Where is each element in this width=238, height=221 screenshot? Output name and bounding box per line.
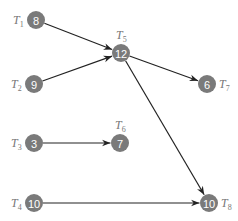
- node-t3: 3T3: [11, 134, 43, 152]
- edge-t5-t7: [129, 56, 198, 81]
- node-value: 8: [33, 15, 39, 27]
- node-label: T4: [11, 196, 22, 212]
- node-label: T3: [11, 136, 22, 152]
- node-t8: 10T8: [200, 194, 232, 212]
- node-label: T7: [219, 77, 230, 93]
- edge-t2-t5: [42, 56, 112, 81]
- node-t5: 12T5: [112, 28, 130, 62]
- node-t7: 6T7: [198, 75, 230, 93]
- node-label: T8: [221, 196, 232, 212]
- node-t6: 7T6: [111, 118, 129, 152]
- node-value: 10: [28, 198, 40, 210]
- node-value: 9: [31, 79, 37, 91]
- node-t1: 8T1: [13, 11, 45, 29]
- node-value: 7: [117, 138, 123, 150]
- node-value: 6: [204, 79, 210, 91]
- node-value: 3: [31, 138, 37, 150]
- node-value: 10: [203, 198, 215, 210]
- node-label: T2: [11, 77, 22, 93]
- node-t4: 10T4: [11, 194, 43, 212]
- edge-t5-t8: [126, 61, 205, 195]
- node-t2: 9T2: [11, 75, 43, 93]
- node-label: T5: [116, 28, 127, 44]
- nodes: 8T19T23T310T412T57T66T710T8: [11, 11, 232, 212]
- node-label: T6: [115, 118, 126, 134]
- edge-t1-t5: [44, 23, 112, 49]
- node-label: T1: [13, 13, 24, 29]
- task-graph-diagram: 8T19T23T310T412T57T66T710T8: [0, 0, 238, 221]
- node-value: 12: [115, 48, 127, 60]
